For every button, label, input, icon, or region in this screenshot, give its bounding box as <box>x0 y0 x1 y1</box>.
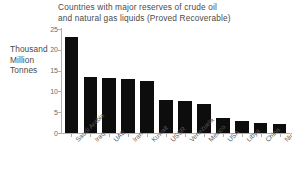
y-axis-title-line-2: Million <box>10 55 58 66</box>
y-tick-label-text: 25 <box>42 26 58 33</box>
x-category-label: USA <box>226 138 231 143</box>
x-category-label: USSR <box>169 138 174 143</box>
y-tick-label-text: 20 <box>42 46 58 53</box>
x-tick-mark <box>204 134 205 137</box>
y-tick-label-text: 10 <box>42 88 58 95</box>
y-axis-line <box>61 28 62 134</box>
x-tick-mark <box>185 134 186 137</box>
x-category-label: UAE <box>112 138 117 143</box>
x-category-label: Saudi Arabia <box>74 138 79 143</box>
bar <box>65 37 79 133</box>
chart-title-line-2: and natural gas liquids (Proved Recovera… <box>58 13 290 24</box>
x-category-label: Nigeria <box>283 138 288 143</box>
y-tick-mark <box>58 71 61 72</box>
chart-title: Countries with major reserves of crude o… <box>58 2 290 23</box>
y-tick-mark <box>58 29 61 30</box>
y-tick-mark <box>58 91 61 92</box>
x-tick-mark <box>147 134 148 137</box>
y-tick-label: 20 <box>38 46 58 53</box>
x-category-label: China <box>264 138 269 143</box>
x-tick-mark <box>109 134 110 137</box>
x-category-label: Kuwait <box>150 138 155 143</box>
y-tick-mark <box>58 50 61 51</box>
y-tick-label-text: 5 <box>42 109 58 116</box>
x-category-label: Libya <box>245 138 250 143</box>
chart-title-line-1: Countries with major reserves of crude o… <box>58 2 290 13</box>
x-tick-mark <box>280 134 281 137</box>
bar-chart: Countries with major reserves of crude o… <box>0 0 292 171</box>
x-tick-mark <box>90 134 91 137</box>
x-tick-mark <box>223 134 224 137</box>
x-tick-mark <box>166 134 167 137</box>
bar <box>102 78 116 133</box>
x-tick-mark <box>128 134 129 137</box>
bar <box>140 81 154 133</box>
y-tick-label: 25 <box>38 26 58 33</box>
y-tick-mark <box>58 112 61 113</box>
y-tick-label: 0 <box>38 130 58 137</box>
x-tick-mark <box>261 134 262 137</box>
x-category-label: Iraq <box>93 138 98 143</box>
y-tick-label: 15 <box>38 67 58 74</box>
y-tick-label: 5 <box>38 109 58 116</box>
x-tick-mark <box>71 134 72 137</box>
y-tick-mark <box>58 133 61 134</box>
y-tick-label-text: 15 <box>42 67 58 74</box>
x-tick-mark <box>242 134 243 137</box>
x-category-label: Mexico <box>207 138 212 143</box>
x-category-label: Venezuela <box>188 138 193 143</box>
y-tick-label: 10 <box>38 88 58 95</box>
x-category-label: Iran <box>131 138 136 143</box>
y-tick-label-text: 0 <box>42 130 58 137</box>
bar <box>121 79 135 133</box>
